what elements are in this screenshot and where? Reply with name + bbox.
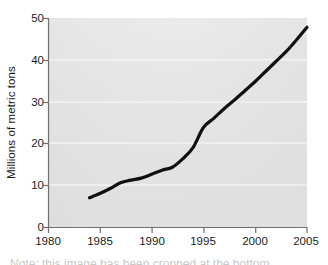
caption-remnant: Note: this image has been cropped at the… (10, 258, 310, 265)
plot-area (0, 0, 328, 265)
chart-figure: Millions of metric tons 50 40 30 20 10 0… (0, 0, 328, 265)
y-axis-ticks (43, 19, 48, 228)
plot-background-overlay (48, 18, 307, 227)
